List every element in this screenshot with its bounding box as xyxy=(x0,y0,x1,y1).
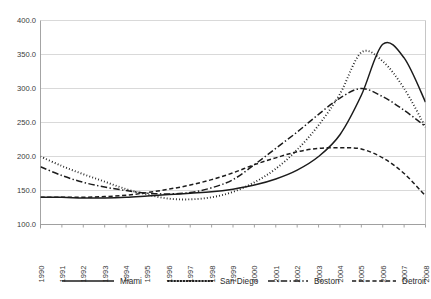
line-chart: 100.0150.0200.0250.0300.0350.0400.019901… xyxy=(0,0,431,299)
x-axis-tick-label: 2002 xyxy=(293,266,302,283)
y-axis-tick-label: 300.0 xyxy=(17,84,36,93)
legend-label: Miami xyxy=(120,277,142,286)
series-group xyxy=(41,42,426,199)
chart-canvas: 100.0150.0200.0250.0300.0350.0400.019901… xyxy=(0,0,431,299)
x-axis-tick-label: 1996 xyxy=(165,266,174,283)
x-axis-tick-label: 2005 xyxy=(357,266,366,283)
x-axis-tick-label: 1990 xyxy=(37,266,46,283)
y-axis-tick-label: 100.0 xyxy=(17,220,36,229)
series-line-miami xyxy=(41,42,426,198)
x-axis-tick-label: 1998 xyxy=(208,266,217,283)
y-axis-tick-label: 250.0 xyxy=(17,118,36,127)
y-axis-tick-label: 400.0 xyxy=(17,16,36,25)
x-axis-ticks: 1990199119921993199419951996199719981999… xyxy=(37,225,431,283)
x-axis-tick-label: 1997 xyxy=(186,266,195,283)
legend-label: San Diego xyxy=(220,277,259,286)
chart-legend: MiamiSan DiegoBostonDetroit xyxy=(62,277,427,286)
x-axis-tick-label: 2006 xyxy=(379,266,388,283)
x-axis-tick-label: 1992 xyxy=(79,266,88,283)
y-axis-tick-label: 350.0 xyxy=(17,50,36,59)
x-axis-tick-label: 2001 xyxy=(272,266,281,283)
x-axis-tick-label: 1993 xyxy=(101,266,110,283)
x-axis-tick-label: 1995 xyxy=(143,266,152,283)
y-axis-tick-label: 150.0 xyxy=(17,186,36,195)
y-axis-tick-label: 200.0 xyxy=(17,152,36,161)
legend-label: Detroit xyxy=(402,277,427,286)
x-axis-tick-label: 1991 xyxy=(58,266,67,283)
series-line-boston xyxy=(41,88,426,193)
legend-label: Boston xyxy=(314,277,340,286)
series-line-san-diego xyxy=(41,51,426,200)
